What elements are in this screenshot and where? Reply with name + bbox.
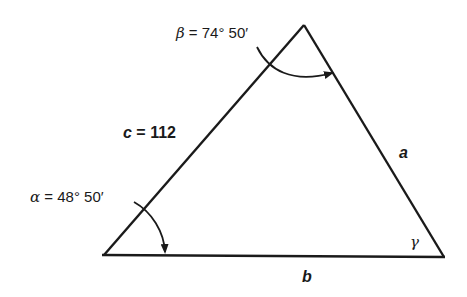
side-a-label: a	[399, 144, 408, 161]
side-c-label: c = 112	[123, 124, 176, 141]
side-a-line	[304, 25, 444, 257]
side-b-line	[102, 255, 445, 257]
beta-value: = 74° 50′	[185, 24, 249, 41]
alpha-label: α = 48° 50′	[30, 188, 104, 206]
alpha-value: = 48° 50′	[40, 188, 104, 205]
side-c-value: = 112	[132, 124, 176, 141]
alpha-angle-arc-arrow	[134, 202, 165, 252]
alpha-symbol: α	[30, 188, 40, 206]
gamma-label: γ	[410, 233, 419, 251]
beta-label: β = 74° 50′	[175, 24, 248, 42]
side-b-label: b	[302, 268, 312, 285]
triangle-diagram: β = 74° 50′ c = 112 α = 48° 50′ a b γ	[0, 0, 467, 297]
beta-symbol: β	[175, 24, 185, 42]
side-c-symbol: c	[123, 124, 132, 141]
